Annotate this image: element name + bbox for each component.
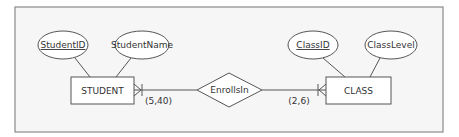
entity-label: STUDENT [81, 86, 124, 96]
relationship-label: EnrollsIn [210, 85, 248, 95]
entity-class: CLASS [326, 77, 391, 104]
attribute-studentid: StudentID [38, 31, 88, 59]
attribute-classid: ClassID [288, 31, 338, 59]
cardinality-student: (5,40) [145, 96, 172, 106]
entity-label: CLASS [344, 86, 373, 96]
attribute-label: StudentID [40, 40, 85, 50]
entity-student: STUDENT [71, 77, 134, 104]
attribute-label: StudentName [111, 40, 173, 50]
attribute-label: ClassLevel [367, 40, 414, 50]
attribute-classlevel: ClassLevel [365, 31, 417, 59]
attribute-label: ClassID [296, 40, 329, 50]
diagram-frame [15, 7, 443, 132]
cardinality-class: (2,6) [288, 96, 309, 106]
er-diagram: StudentID StudentName ClassID ClassLevel… [0, 0, 459, 137]
